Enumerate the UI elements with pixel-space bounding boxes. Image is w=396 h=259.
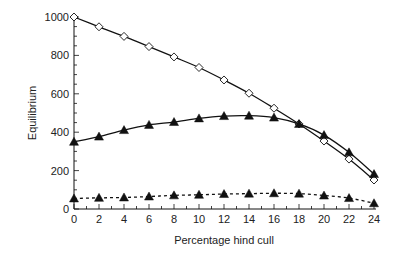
diamond-marker [95, 23, 103, 31]
y-axis-label: Equilibrium [26, 86, 38, 140]
x-tick-label: 6 [146, 213, 152, 225]
y-tick-label: 1000 [45, 11, 69, 23]
diamond-marker [245, 89, 253, 97]
diamond-marker [120, 32, 128, 40]
x-tick-label: 0 [71, 213, 77, 225]
x-tick-label: 4 [121, 213, 127, 225]
x-tick-label: 14 [243, 213, 255, 225]
triangle-marker [95, 193, 104, 201]
x-tick-label: 16 [268, 213, 280, 225]
line-chart: 02004006008001000 024681012141618202224 … [0, 0, 396, 259]
diamond-marker [195, 63, 203, 71]
triangle-marker [370, 199, 379, 207]
x-axis-ticks: 024681012141618202224 [71, 204, 380, 225]
diamond-marker [145, 43, 153, 51]
diamond-marker [270, 104, 278, 112]
y-tick-label: 400 [51, 126, 69, 138]
x-tick-label: 2 [96, 213, 102, 225]
diamond-marker [170, 53, 178, 61]
diamond-marker [70, 13, 78, 21]
chart-series [70, 13, 379, 207]
diamond-marker [220, 76, 228, 84]
x-tick-label: 20 [318, 213, 330, 225]
x-tick-label: 10 [193, 213, 205, 225]
y-tick-label: 200 [51, 165, 69, 177]
x-tick-label: 8 [171, 213, 177, 225]
triangle-marker [120, 193, 129, 201]
x-tick-label: 24 [368, 213, 380, 225]
series-open-diamond-solid [70, 13, 378, 184]
x-tick-label: 12 [218, 213, 230, 225]
chart-axes [74, 15, 376, 209]
triangle-marker [295, 189, 304, 197]
triangle-marker [345, 148, 354, 156]
x-tick-label: 22 [343, 213, 355, 225]
x-axis-label: Percentage hind cull [174, 234, 274, 246]
y-tick-label: 800 [51, 49, 69, 61]
triangle-marker [245, 189, 254, 197]
series-line [74, 17, 374, 180]
y-tick-label: 600 [51, 88, 69, 100]
series-filled-triangle-solid [70, 111, 379, 177]
triangle-marker [70, 194, 79, 202]
x-tick-label: 18 [293, 213, 305, 225]
y-tick-label: 0 [63, 203, 69, 215]
triangle-marker [320, 131, 329, 139]
triangle-marker [270, 189, 279, 197]
